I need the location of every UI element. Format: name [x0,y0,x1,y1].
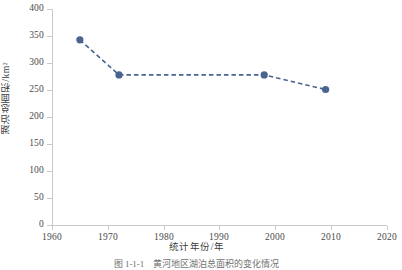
series-line [80,40,326,90]
data-point [115,71,122,78]
data-point [261,71,268,78]
figure-caption: 图 1-1-1黄河地区湖泊总面积的变化情况 [0,259,393,270]
figure-caption-number: 图 1-1-1 [114,259,145,269]
figure-caption-text: 黄河地区湖泊总面积的变化情况 [153,259,279,269]
data-point [322,86,329,93]
data-point [76,36,83,43]
x-axis-title: 统计年份/年 [0,242,393,253]
y-axis-title: 湖泊总面积/km² [1,62,17,134]
